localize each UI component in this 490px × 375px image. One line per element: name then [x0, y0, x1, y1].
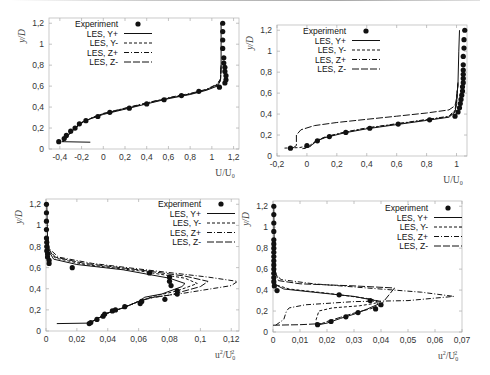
- experiment-marker: [461, 67, 466, 72]
- series-line-les-z-plus: [304, 83, 458, 149]
- experiment-marker: [44, 235, 49, 240]
- x-tick-label: 0,4: [361, 159, 373, 169]
- y-tick-label: 0: [267, 151, 272, 161]
- legend-label: LES, Y-: [90, 38, 119, 48]
- y-tick-label: 1,2: [29, 199, 41, 209]
- y-tick-label: 0,4: [260, 109, 272, 119]
- y-tick-label: 1,2: [32, 18, 44, 28]
- experiment-marker: [44, 227, 49, 232]
- experiment-marker: [315, 138, 320, 143]
- series-line-les-y-minus: [285, 83, 459, 149]
- legend-label: LES, Y+: [87, 29, 118, 39]
- x-tick-label: 0,2: [119, 152, 131, 162]
- chart-mean-velocity-left: -0,4-0,200,20,40,60,811,200,20,40,60,811…: [0, 0, 490, 375]
- y-tick-label: 1: [36, 220, 41, 230]
- y-tick-label: 0,6: [256, 264, 268, 274]
- experiment-marker: [452, 114, 457, 119]
- legend-label: LES, Z-: [172, 237, 201, 247]
- x-tick-label: 0,01: [292, 335, 309, 345]
- series-line-les-z-plus: [274, 264, 454, 325]
- x-tick-label: 0,02: [319, 335, 336, 345]
- y-tick-label: 0,2: [256, 306, 268, 316]
- series-line-les-z-plus: [63, 65, 221, 142]
- x-tick-label: 0,08: [161, 334, 178, 344]
- x-tick-label: 0,6: [163, 152, 175, 162]
- experiment-marker: [220, 21, 225, 26]
- legend-marker-icon: [218, 201, 223, 206]
- experiment-marker: [64, 133, 69, 138]
- x-tick-label: 0,12: [223, 334, 240, 344]
- x-tick-label: 0: [305, 159, 310, 169]
- legend-label: LES, Y+: [315, 36, 346, 46]
- x-tick-label: 0,07: [454, 335, 471, 345]
- y-tick-label: 0,4: [29, 284, 41, 294]
- x-tick-label: 0,03: [346, 335, 363, 345]
- series-line-les-y-plus: [62, 23, 221, 142]
- x-tick-label: 0,02: [69, 334, 86, 344]
- y-tick-label: 0,8: [260, 67, 272, 77]
- experiment-marker: [462, 28, 467, 33]
- legend-label: LES, Z+: [87, 48, 118, 58]
- experiment-marker: [221, 60, 226, 65]
- experiment-marker: [167, 275, 172, 280]
- experiment-marker: [56, 139, 61, 144]
- legend-label: LES, Z+: [170, 228, 201, 238]
- experiment-marker: [315, 322, 320, 327]
- x-tick-label: 0: [271, 335, 276, 345]
- y-tick-label: 0,6: [32, 81, 44, 91]
- experiment-marker: [271, 220, 276, 225]
- y-axis-title: y/D: [241, 212, 251, 227]
- x-axis-title: U/U0: [443, 175, 462, 186]
- y-tick-label: 1: [39, 39, 44, 49]
- y-tick-label: 0,4: [32, 102, 44, 112]
- experiment-marker: [162, 297, 167, 302]
- y-tick-label: 1: [267, 46, 272, 56]
- plot-frame: [49, 18, 239, 149]
- experiment-marker: [139, 299, 144, 304]
- y-axis-title: y/D: [17, 29, 27, 44]
- y-tick-label: 0,2: [29, 305, 41, 315]
- experiment-marker: [179, 93, 184, 98]
- y-tick-label: 0,6: [29, 263, 41, 273]
- plot-frame: [277, 25, 467, 156]
- series-line-les-y-minus: [63, 65, 221, 142]
- experiment-marker: [122, 304, 127, 309]
- experiment-marker: [461, 62, 466, 67]
- series-line-les-z-minus: [273, 269, 395, 325]
- y-tick-label: 1,2: [256, 201, 268, 211]
- experiment-marker: [217, 85, 222, 90]
- x-tick-label: 0,8: [421, 159, 433, 169]
- experiment-marker: [461, 54, 466, 59]
- series-line-les-z-minus: [48, 236, 209, 323]
- x-tick-label: 0,6: [391, 159, 403, 169]
- x-tick-label: -0,4: [53, 152, 68, 162]
- legend-marker-icon: [445, 205, 450, 210]
- legend-label: LES, Y-: [318, 45, 347, 55]
- experiment-marker: [70, 265, 75, 270]
- experiment-marker: [271, 229, 276, 234]
- chart-u2-left: 00,020,040,060,080,10,1200,20,40,60,811,…: [14, 199, 240, 361]
- experiment-marker: [220, 37, 225, 42]
- legend-marker-icon: [135, 21, 140, 26]
- experiment-marker: [327, 134, 332, 139]
- x-tick-label: 1,2: [228, 152, 240, 162]
- legend-label: LES, Z+: [397, 232, 428, 242]
- legend-label: Experiment: [385, 203, 429, 213]
- experiment-marker: [368, 298, 373, 303]
- x-tick-label: 1: [454, 159, 459, 169]
- x-tick-label: 0,2: [331, 159, 343, 169]
- experiment-marker: [343, 130, 348, 135]
- experiment-marker: [274, 288, 279, 293]
- experiment-marker: [396, 121, 401, 126]
- experiment-marker: [68, 129, 73, 134]
- chart-mean-velocity-right: -0,200,20,40,60,8100,20,40,60,811,2y/DU/…: [245, 25, 467, 186]
- experiment-marker: [221, 55, 226, 60]
- experiment-marker: [72, 125, 77, 130]
- experiment-marker: [196, 89, 201, 94]
- experiment-marker: [102, 312, 107, 317]
- experiment-marker: [113, 307, 118, 312]
- experiment-marker: [94, 317, 99, 322]
- experiment-marker: [77, 121, 82, 126]
- x-tick-label: 0,04: [373, 335, 390, 345]
- x-axis-title: U/U0: [215, 168, 234, 179]
